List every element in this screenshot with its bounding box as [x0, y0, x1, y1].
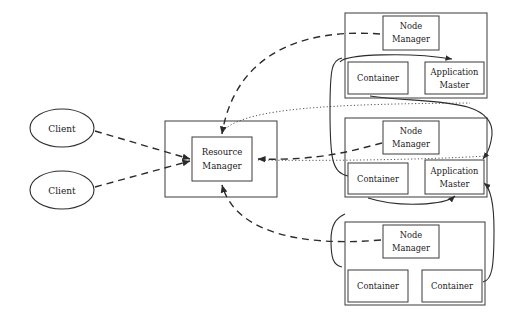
client-node-1[interactable]: Client [30, 109, 94, 147]
node-3-node-manager-label-line2: Manager [392, 243, 430, 253]
client-2-label: Client [48, 186, 76, 196]
yarn-architecture-diagram: Node Manager Container Application Maste… [0, 0, 519, 322]
node-3-container-left-label: Container [357, 281, 399, 291]
diagram-canvas: Node Manager Container Application Maste… [0, 0, 519, 322]
edge-node1-container-to-application-master [340, 55, 452, 62]
node-1-application-master-label-line1: Application [430, 67, 479, 77]
edge-client2-to-resource-manager [95, 161, 190, 187]
client-node-2[interactable]: Client [30, 171, 94, 209]
node-3-container-right-label: Container [431, 281, 473, 291]
node-1-node-manager-label-line1: Node [400, 21, 423, 31]
node-1-node-manager-label-line2: Manager [392, 34, 430, 44]
node-1-container-label: Container [357, 73, 399, 83]
client-1-label: Client [48, 124, 76, 134]
node-1-application-master-label-line2: Master [440, 80, 470, 90]
node-2-application-master-label-line1: Application [430, 166, 479, 176]
node-2-application-master-label-line2: Master [440, 179, 470, 189]
node-manager-block-3: Node Manager Container Container [345, 222, 485, 305]
node-2-node-manager-label-line1: Node [400, 126, 423, 136]
resource-manager-label-line1: Resource [202, 147, 243, 157]
edge-client1-to-resource-manager [95, 131, 190, 159]
edge-node3-left-wrap [331, 214, 345, 267]
resource-manager-label-line2: Manager [202, 161, 242, 171]
node-3-node-manager-label-line1: Node [400, 230, 423, 240]
node-2-container-label: Container [357, 174, 399, 184]
node-2-node-manager-label-line2: Manager [392, 139, 430, 149]
resource-manager-inner-box[interactable] [192, 137, 252, 181]
